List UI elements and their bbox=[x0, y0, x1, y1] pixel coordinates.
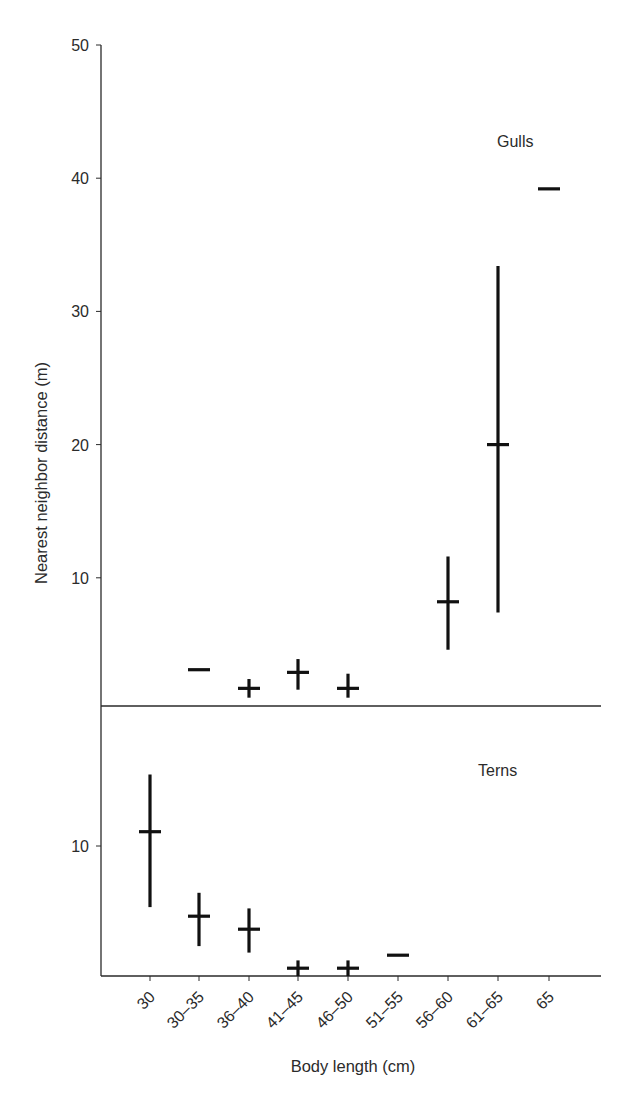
terns-y-ticks: 10 bbox=[71, 838, 101, 855]
gulls-point-36–40 bbox=[238, 679, 260, 698]
x-tick-label: 46–50 bbox=[313, 988, 357, 1032]
x-tick-label: 36–40 bbox=[214, 988, 258, 1032]
terns-point-36–40 bbox=[238, 908, 260, 952]
y-tick-label: 30 bbox=[71, 303, 89, 320]
gulls-point-61–65 bbox=[487, 266, 509, 612]
terns-point-41–45 bbox=[287, 960, 309, 976]
axes bbox=[101, 45, 601, 976]
x-tick-label: 61–65 bbox=[463, 988, 507, 1032]
x-tick-label: 41–45 bbox=[263, 988, 307, 1032]
x-tick-label: 65 bbox=[533, 988, 558, 1013]
y-tick-label: 40 bbox=[71, 170, 89, 187]
terns-point-30 bbox=[139, 775, 161, 908]
terns-point-30–35 bbox=[188, 893, 210, 946]
x-tick-label: 30–35 bbox=[164, 988, 208, 1032]
y-tick-label: 10 bbox=[71, 838, 89, 855]
gulls-y-ticks: 1020304050 bbox=[71, 37, 101, 587]
y-tick-label: 10 bbox=[71, 570, 89, 587]
x-tick-label: 30 bbox=[134, 988, 159, 1013]
gulls-point-46–50 bbox=[337, 674, 359, 698]
y-tick-label: 20 bbox=[71, 437, 89, 454]
terns-data-marks bbox=[139, 775, 409, 977]
terns-panel-label: Terns bbox=[478, 762, 517, 779]
terns-point-46–50 bbox=[337, 960, 359, 976]
x-ticks: 3030–3536–4041–4546–5051–5556–6061–6565 bbox=[134, 976, 558, 1032]
gulls-point-41–45 bbox=[287, 659, 309, 690]
gulls-data-marks bbox=[188, 189, 560, 698]
x-axis-title: Body length (cm) bbox=[291, 1057, 416, 1075]
nearest-neighbor-chart: 1020304050 10 3030–3536–4041–4546–5051–5… bbox=[0, 0, 631, 1102]
gulls-panel-label: Gulls bbox=[497, 133, 533, 150]
x-tick-label: 51–55 bbox=[363, 988, 407, 1032]
x-tick-label: 56–60 bbox=[413, 988, 457, 1032]
y-axis-title: Nearest neighbor distance (m) bbox=[32, 362, 50, 584]
y-tick-label: 50 bbox=[71, 37, 89, 54]
gulls-point-56–60 bbox=[437, 556, 459, 649]
